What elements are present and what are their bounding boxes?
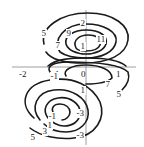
lower-contour-5 (25, 79, 102, 138)
contour-label-5-middle: 5 (116, 90, 122, 99)
x-tick-0: 0 (81, 70, 86, 79)
contour-label-7-middle: 7 (105, 80, 111, 89)
contour-label-7-upper: 7 (55, 41, 61, 50)
contour-label-1-upper: 1 (80, 42, 86, 51)
contour-label-neg3-bottom: -3 (76, 131, 85, 140)
contour-label-11-upper: 11 (96, 35, 106, 44)
x-tick-1: 1 (116, 70, 121, 79)
contour-label-5-upper: 5 (41, 29, 47, 38)
contour-label-neg3-right: -3 (76, 109, 85, 118)
contour-label-3-lower: 3 (42, 127, 48, 136)
contour-label-1-middle: 1 (80, 86, 86, 95)
contour-label-5-lower: 5 (30, 133, 36, 142)
contour-label-neg1-middle: -1 (50, 72, 59, 81)
x-tick-neg2: -2 (19, 70, 27, 79)
contour-label-1-lower: 1 (47, 121, 53, 130)
contour-label-9-upper: 9 (66, 29, 72, 38)
contour-label-2-upper: 2 (80, 19, 86, 28)
